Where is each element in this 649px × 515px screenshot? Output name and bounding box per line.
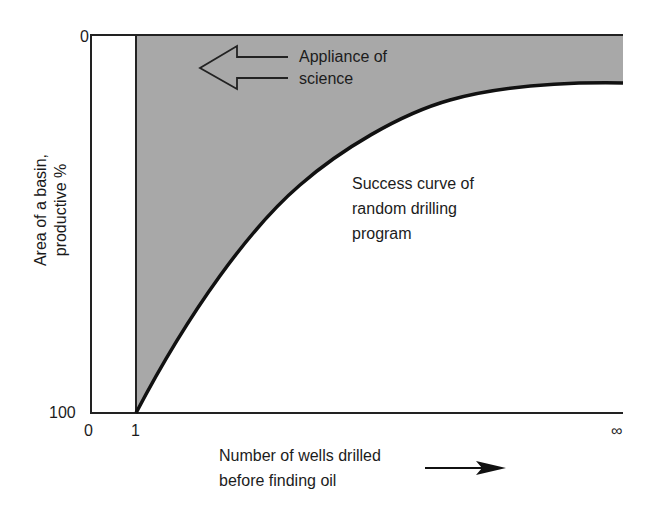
y-axis-label: Area of a basin, productive %: [31, 90, 71, 330]
x-tick-1: 1: [131, 421, 140, 440]
x-axis-label-line1: Number of wells drilled: [219, 443, 381, 468]
curve-annotation-line1: Success curve of: [352, 171, 474, 196]
curve-annotation-line3: program: [352, 221, 474, 246]
curve-annotation-line2: random drilling: [352, 196, 474, 221]
y-tick-0: 0: [80, 27, 89, 46]
x-axis-label-line2: before finding oil: [219, 468, 381, 493]
science-annotation: Appliance of science: [299, 46, 387, 90]
x-tick-infinity: ∞: [611, 421, 622, 440]
x-axis-label: Number of wells drilled before finding o…: [219, 443, 381, 493]
curve-annotation: Success curve of random drilling program: [352, 171, 474, 246]
x-tick-0: 0: [84, 421, 93, 440]
science-annotation-line1: Appliance of: [299, 46, 387, 68]
science-annotation-line2: science: [299, 68, 387, 90]
y-axis-label-line1: Area of a basin,: [31, 90, 51, 330]
y-axis-label-line2: productive %: [51, 90, 71, 330]
y-tick-100: 100: [49, 403, 76, 422]
